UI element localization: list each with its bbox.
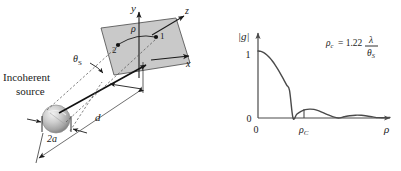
formula-denominator-subscript: S [372, 52, 376, 59]
plane-leader-arrow [110, 84, 142, 89]
coherence-radius-formula: ρc = 1.22 λ θS [325, 35, 378, 59]
separation-label: ρ [130, 23, 136, 34]
axis-x-label: x [185, 58, 191, 69]
axis-z-label: z [184, 5, 189, 16]
formula-lhs-subscript: c [331, 42, 334, 49]
source-caption-line2: source [16, 85, 45, 97]
formula-numerator: λ [368, 35, 373, 45]
coherence-curve [258, 51, 390, 119]
formula-lhs: ρc [325, 38, 334, 49]
plot-x-tick-rho-c: ρC [298, 124, 309, 137]
source-diameter-label: 2a [47, 133, 57, 144]
source-diameter-arrow-left [27, 119, 41, 122]
plot-x-tick-0: 0 [254, 124, 259, 135]
axis-y-label: y [130, 2, 136, 14]
point-1-label: 1 [160, 31, 165, 41]
source-angle-label: θS [73, 53, 82, 67]
plot-y-tick-1: 1 [246, 49, 251, 60]
plot-x-axis-label: ρ [383, 123, 389, 135]
distance-ext-source [36, 133, 43, 163]
distance-label: d [95, 111, 101, 123]
source-caption-line1: Incoherent [3, 71, 50, 83]
physics-figure: y z x 1 2 ρ [0, 0, 401, 171]
plot-y-tick-0: 0 [247, 113, 252, 124]
point-2-label: 2 [112, 45, 117, 55]
plot-x-tick-rho-c-subscript: C [304, 129, 309, 137]
source-angle-subscript: S [78, 59, 82, 67]
figure-canvas: y z x 1 2 ρ [0, 0, 401, 171]
plot-y-axis-label: |g| [238, 30, 250, 42]
coherence-plot-panel: |g| ρ 1 0 0 ρC ρc = 1.22 λ [238, 30, 390, 137]
formula-denominator: θS [367, 48, 376, 59]
formula-equals: = 1.22 [338, 38, 363, 48]
geometry-panel: y z x 1 2 ρ [3, 2, 191, 163]
source-angle-leader [90, 63, 103, 73]
plane-leader-arrow-2 [70, 82, 102, 131]
